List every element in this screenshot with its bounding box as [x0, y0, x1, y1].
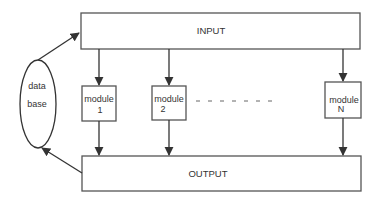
module-1-box: module 1 — [82, 86, 116, 121]
module-n-box: module N — [325, 82, 361, 118]
arrow-database-to-input — [38, 33, 79, 60]
module-1-label-line1: module — [84, 94, 114, 104]
input-label: INPUT — [197, 25, 226, 36]
module-2-label-line1: module — [154, 94, 184, 104]
database-label-line1: data — [28, 81, 46, 91]
database-label-line2: base — [27, 99, 47, 109]
output-label: OUTPUT — [188, 168, 227, 179]
module-2-label-line2: 2 — [160, 104, 165, 114]
module-2-box: module 2 — [152, 86, 186, 120]
module-1-label-line2: 1 — [97, 105, 102, 115]
database-ellipse: data base — [20, 60, 56, 148]
arrow-output-to-database — [42, 148, 82, 173]
architecture-diagram: INPUT OUTPUT data base module 1 module 2… — [0, 0, 380, 199]
module-n-label-line2: N — [338, 104, 345, 114]
output-box: OUTPUT — [82, 156, 361, 191]
input-box: INPUT — [81, 13, 360, 49]
